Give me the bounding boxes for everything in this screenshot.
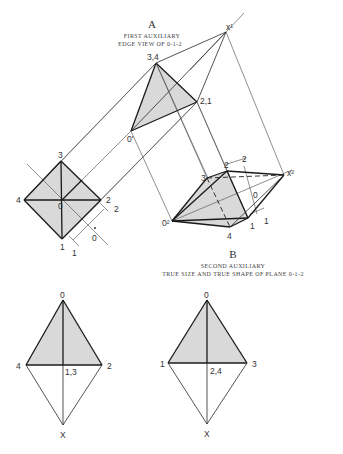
edge-4-x — [26, 365, 63, 425]
label-1: 1 — [250, 221, 255, 231]
dimension-tick-1 — [69, 236, 79, 246]
descriptive-geometry-diagram: x¹ 3,4 2,1 0' 3 4 0 2 1 2 0 1 — [0, 0, 343, 454]
label-0-prime: 0' — [127, 134, 134, 144]
label-top-0: 0 — [204, 290, 209, 300]
label-1: 1 — [60, 242, 65, 252]
view-b-letter: B — [229, 248, 236, 260]
bottom-right-view: 0 1 3 2,4 X — [160, 290, 257, 439]
label-4: 4 — [16, 195, 21, 205]
label-x2: x² — [287, 168, 294, 178]
label-left-1: 1 — [160, 359, 165, 369]
projector-3 — [156, 63, 207, 178]
projector-x1-x2 — [226, 32, 284, 175]
dimension-point-0 — [94, 227, 96, 229]
label-0: 0 — [58, 201, 63, 211]
label-x1: x¹ — [226, 22, 233, 32]
label-4: 4 — [227, 231, 232, 241]
label-ref-2: 2 — [242, 154, 247, 164]
bottom-left-shaded — [26, 300, 102, 365]
label-left-4: 4 — [16, 361, 21, 371]
label-center-24: 2,4 — [210, 366, 222, 376]
label-0-sq: 0² — [162, 218, 170, 228]
second-auxiliary-view: 0² 3 2 4 1 x² 2 0 1 — [162, 154, 294, 241]
label-2: 2 — [106, 195, 111, 205]
label-3: 3 — [201, 173, 206, 183]
label-ref-0: 0 — [92, 233, 97, 243]
label-bottom-x: X — [204, 429, 210, 439]
caption-b: B SECOND AUXILIARY TRUE SIZE AND TRUE SH… — [162, 248, 304, 277]
view-b-caption-1: SECOND AUXILIARY — [201, 263, 266, 269]
label-top-0: 0 — [60, 290, 65, 300]
label-ref-0: 0 — [253, 190, 258, 200]
view-a-caption-1: FIRST AUXILIARY — [124, 33, 181, 39]
label-2-1: 2,1 — [200, 96, 212, 106]
label-ref-1: 1 — [264, 216, 269, 226]
caption-a: A FIRST AUXILIARY EDGE VIEW OF 0-1-2 — [118, 18, 182, 47]
edge-1-x — [168, 363, 207, 424]
label-right-2: 2 — [107, 361, 112, 371]
label-right-3: 3 — [252, 359, 257, 369]
view-b-caption-2: TRUE SIZE AND TRUE SHAPE OF PLANE 0-1-2 — [162, 271, 304, 277]
label-bottom-x: X — [60, 430, 66, 440]
label-2: 2 — [224, 160, 229, 170]
label-ref-1: 1 — [72, 248, 77, 258]
label-ref-2: 2 — [114, 204, 119, 214]
label-center-13: 1,3 — [65, 367, 77, 377]
projector-2 — [197, 102, 227, 171]
label-3-4: 3,4 — [147, 52, 159, 62]
bottom-left-view: 0 4 2 1,3 X — [16, 290, 112, 440]
edge-2-x2 — [227, 171, 284, 175]
label-3: 3 — [58, 150, 63, 160]
view-a-letter: A — [148, 18, 156, 30]
view-a-caption-2: EDGE VIEW OF 0-1-2 — [118, 41, 182, 47]
projector-0 — [131, 131, 172, 221]
